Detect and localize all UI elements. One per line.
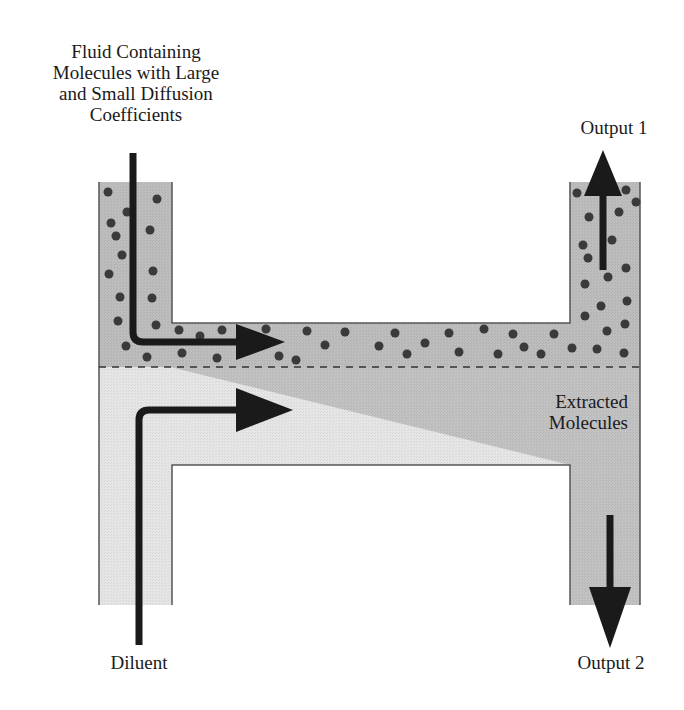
extracted-label-line: Extracted <box>508 391 628 412</box>
arrow-head-down-icon <box>589 587 631 648</box>
diluent-label: Diluent <box>84 652 194 673</box>
extracted-label-line: Molecules <box>508 412 628 433</box>
arrow-head-up-icon <box>584 150 622 196</box>
output1-label: Output 1 <box>554 117 674 138</box>
extracted-molecules-label: Extracted Molecules <box>508 391 628 433</box>
input-label-line: Coefficients <box>16 104 256 125</box>
output2-label: Output 2 <box>546 652 676 673</box>
input-label-line: Molecules with Large <box>16 62 256 83</box>
input-label-line: and Small Diffusion <box>16 83 256 104</box>
input-fluid-label: Fluid Containing Molecules with Large an… <box>16 41 256 125</box>
input-label-line: Fluid Containing <box>16 41 256 62</box>
